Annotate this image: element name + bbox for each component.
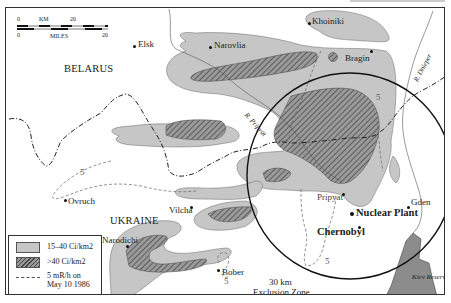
town-elsk: Elsk [138, 40, 154, 49]
country-label-ukraine: UKRAINE [110, 216, 159, 227]
label-nuclear-plant: Nuclear Plant [356, 208, 418, 219]
scale-km-bar [17, 25, 108, 27]
town-vilcha: Vilcha [169, 206, 192, 215]
label-chernobyl: Chernobyl [317, 227, 365, 238]
town-dot-narodichi [126, 245, 129, 248]
legend-label-hatched: >40 Ci/km2 [47, 258, 86, 266]
contour-label-5: 5 [325, 257, 330, 266]
scale-km-label: KM [39, 16, 49, 22]
town-ovruch: Ovruch [68, 197, 95, 206]
scale-miles-label: MILES [50, 33, 68, 39]
scale-miles-start: 0 [17, 32, 20, 38]
town-pripyat: Pripyat [317, 193, 343, 202]
scale-km-start: 0 [17, 16, 20, 22]
label-zone-line1: 30 km [269, 278, 292, 287]
legend-label-light: 15–40 Ci/km2 [47, 243, 93, 251]
town-dot-bragin [370, 50, 373, 53]
scale-km-end: 20 [70, 16, 76, 22]
town-dot-khoiniki [308, 22, 311, 25]
page-header-fragment [350, 0, 445, 2]
town-dot-bober [217, 269, 220, 272]
label-zone-line2: Exclusion Zone [253, 288, 310, 295]
contour-label-5: 5 [224, 277, 229, 286]
legend-label-dashed-2: May 10 1986 [47, 281, 90, 289]
label-kiev: Kiev Reservoir [412, 274, 445, 281]
nuclear-plant-marker [350, 212, 354, 216]
contour-label-5: 5 [80, 168, 85, 177]
town-dot-ovruch [64, 199, 67, 202]
town-narodichi: Narodichi [102, 236, 138, 245]
contour-label-5: 5 [376, 93, 381, 102]
legend-swatch-light [16, 242, 40, 253]
legend-swatch-dashed [16, 277, 40, 278]
scale-miles-bar [17, 28, 108, 30]
map-legend: 15–40 Ci/km2 >40 Ci/km2 5 mR/h on May 10… [8, 235, 102, 295]
map-frame: 0 KM 20 0 MILES 20 BELARUS UKRAINE Elsk … [5, 7, 445, 295]
country-label-belarus: BELARUS [64, 64, 113, 75]
town-gden: Gden [411, 198, 431, 207]
legend-swatch-hatched [16, 257, 40, 268]
town-bragin: Bragin [345, 54, 370, 63]
town-dot-narovlia [209, 46, 212, 49]
town-khoiniki: Khoiniki [312, 17, 344, 26]
town-dot-elsk [133, 45, 136, 48]
town-narovlia: Narovlia [214, 41, 246, 50]
scale-miles-end: 20 [102, 32, 108, 38]
